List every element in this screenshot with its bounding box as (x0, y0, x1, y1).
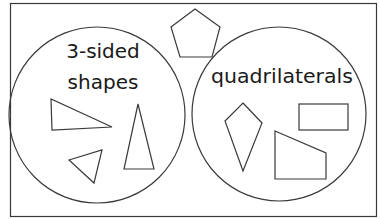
venn-diagram: 3-sided shapes quadrilaterals (0, 0, 380, 219)
diagram-frame (11, 4, 377, 217)
set-label-three-sided-line1: 3-sided (66, 39, 140, 63)
set-label-quadrilaterals: quadrilaterals (211, 65, 353, 87)
set-label-three-sided-line2: shapes (68, 70, 139, 94)
